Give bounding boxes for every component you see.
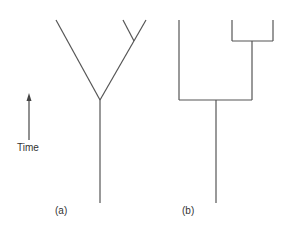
panel-b-label: (b) — [182, 205, 194, 216]
phylogenetic-tree-figure: Time (a) (b) — [0, 0, 292, 227]
tree-diagrams — [0, 0, 292, 227]
tree-a — [56, 20, 146, 203]
time-label: Time — [17, 142, 39, 153]
panel-a-label: (a) — [55, 205, 67, 216]
tree-b — [179, 20, 273, 203]
